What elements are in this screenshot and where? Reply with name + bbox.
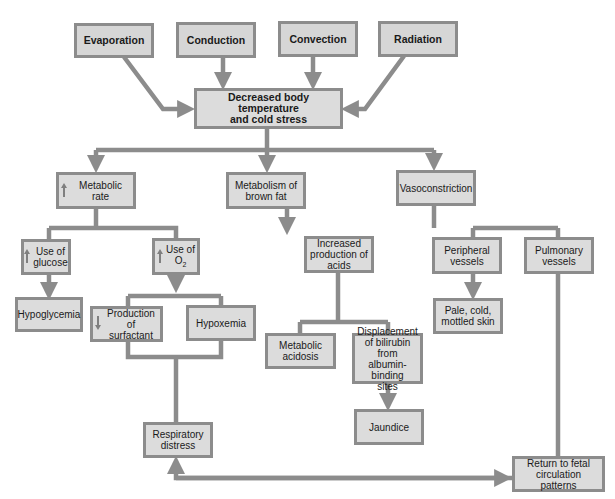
node-line: of bilirubin from xyxy=(357,337,418,359)
node-line: Pulmonary xyxy=(535,245,583,256)
node-line: acids xyxy=(327,260,350,271)
node-line: Use of xyxy=(166,244,195,255)
node-use-of-o2: Use of O2 xyxy=(152,238,200,275)
node-hypoxemia: Hypoxemia xyxy=(186,305,256,341)
node-pale-cold-mottled-skin: Pale, cold, mottled skin xyxy=(433,298,503,334)
node-increased-production-of-acids: Increased production of acids xyxy=(304,236,374,273)
node-line: brown fat xyxy=(245,191,286,202)
node-line: Use of xyxy=(33,246,67,257)
node-line: Production of xyxy=(104,308,158,330)
node-line: Respiratory xyxy=(152,429,203,440)
radiation-connector xyxy=(349,56,404,109)
central-line2: and cold stress xyxy=(230,114,307,125)
node-line: circulation patterns xyxy=(517,469,600,491)
source-convection: Convection xyxy=(278,21,358,57)
central-decreased-body-temperature: Decreased body temperature and cold stre… xyxy=(194,88,343,129)
node-displacement-of-bilirubin: Displacement of bilirubin from albumin-b… xyxy=(352,333,423,384)
node-line: mottled skin xyxy=(441,316,494,327)
node-return-to-fetal-circulation: Return to fetal circulation patterns xyxy=(512,456,605,492)
node-line: Pale, cold, xyxy=(445,305,492,316)
node-respiratory-distress: Respiratory distress xyxy=(143,422,213,458)
node-vasoconstriction: Vasoconstriction xyxy=(396,170,476,206)
source-label: Evaporation xyxy=(84,35,145,46)
node-metabolic-acidosis: Metabolic acidosis xyxy=(265,333,336,369)
node-hypoglycemia: Hypoglycemia xyxy=(15,297,83,332)
node-line: production of xyxy=(310,249,368,260)
source-label: Convection xyxy=(289,34,346,45)
node-line: Increased xyxy=(317,238,361,249)
node-jaundice: Jaundice xyxy=(354,409,424,445)
up-arrow-icon xyxy=(157,249,163,265)
source-label: Conduction xyxy=(187,35,245,46)
node-line: Displacement xyxy=(357,326,418,337)
node-label: Vasoconstriction xyxy=(400,183,473,194)
up-arrow-icon xyxy=(61,183,67,199)
node-line: Peripheral xyxy=(444,245,490,256)
node-production-of-surfactant: Production of surfactant xyxy=(90,306,163,342)
node-line: distress xyxy=(161,440,195,451)
node-line: glucose xyxy=(33,257,67,268)
node-label: Jaundice xyxy=(369,422,409,433)
central-line1: Decreased body temperature xyxy=(199,92,338,114)
source-label: Radiation xyxy=(394,34,442,45)
up-arrow-icon xyxy=(24,249,30,265)
cold-stress-flowchart: Evaporation Conduction Convection Radiat… xyxy=(0,0,615,499)
down-arrow-icon xyxy=(95,316,101,332)
node-line: albumin-binding xyxy=(357,359,418,381)
source-radiation: Radiation xyxy=(378,21,458,57)
node-line: surfactant xyxy=(104,330,158,341)
node-line: Metabolism of xyxy=(235,180,297,191)
node-label: Hypoglycemia xyxy=(18,309,81,320)
node-brown-fat: Metabolism of brown fat xyxy=(226,172,306,209)
node-line: vessels xyxy=(450,256,483,267)
node-peripheral-vessels: Peripheral vessels xyxy=(432,237,502,274)
node-label: Hypoxemia xyxy=(196,318,246,329)
node-metabolic-rate: Metabolic rate xyxy=(56,172,136,209)
node-line: sites xyxy=(377,381,398,392)
source-conduction: Conduction xyxy=(176,22,256,58)
source-evaporation: Evaporation xyxy=(74,23,154,58)
node-line: acidosis xyxy=(282,351,318,362)
node-line: vessels xyxy=(542,256,575,267)
node-line: Return to fetal xyxy=(527,458,590,469)
node-line: Metabolic xyxy=(279,340,322,351)
node-line: O2 xyxy=(166,255,195,270)
node-label: Metabolic rate xyxy=(70,180,131,202)
node-use-of-glucose: Use of glucose xyxy=(21,239,71,275)
node-pulmonary-vessels: Pulmonary vessels xyxy=(524,237,594,274)
evaporation-connector xyxy=(124,57,187,109)
